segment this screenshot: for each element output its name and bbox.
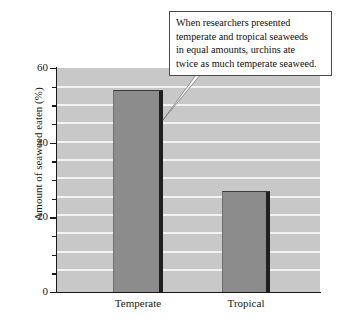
- y-tick-minor: [52, 180, 57, 181]
- gridline: [57, 159, 320, 161]
- gridline: [57, 177, 320, 179]
- y-tick-minor: [52, 87, 57, 88]
- y-tick-minor: [52, 255, 57, 256]
- x-tick-label-temperate: Temperate: [88, 297, 188, 309]
- gridline: [57, 251, 320, 253]
- gridline: [57, 214, 320, 216]
- y-tick-minor: [52, 273, 57, 274]
- annotation-line-3: in equal amounts, urchins ate: [176, 43, 326, 57]
- gridline: [57, 122, 320, 124]
- annotation-line-1: When researchers presented: [176, 16, 326, 30]
- x-axis-line: [56, 292, 321, 293]
- annotation-callout: When researchers presented temperate and…: [169, 11, 332, 76]
- y-tick-minor: [52, 105, 57, 106]
- bar-edge: [266, 192, 270, 292]
- y-axis-title: Amount of seaweed eaten (%): [32, 54, 44, 254]
- y-tick-major: [50, 68, 57, 69]
- y-tick-minor: [52, 161, 57, 162]
- chart-figure: 60 40 20 0 Amount of seaweed eaten (%) T…: [0, 0, 343, 327]
- y-tick-major: [50, 292, 57, 293]
- y-tick-minor: [52, 124, 57, 125]
- y-tick-minor: [52, 199, 57, 200]
- y-tick-major: [50, 217, 57, 218]
- gridline: [57, 196, 320, 198]
- y-tick-label-0: 0: [8, 286, 48, 297]
- y-tick-minor: [52, 236, 57, 237]
- bar-tropical: [222, 191, 270, 292]
- y-tick-major: [50, 143, 57, 144]
- gridline: [57, 232, 320, 234]
- x-tick-label-tropical: Tropical: [196, 297, 296, 309]
- gridline: [57, 269, 320, 271]
- annotation-line-2: temperate and tropical seaweeds: [176, 30, 326, 44]
- gridline: [57, 141, 320, 143]
- annotation-line-4: twice as much temperate seaweed.: [176, 57, 326, 71]
